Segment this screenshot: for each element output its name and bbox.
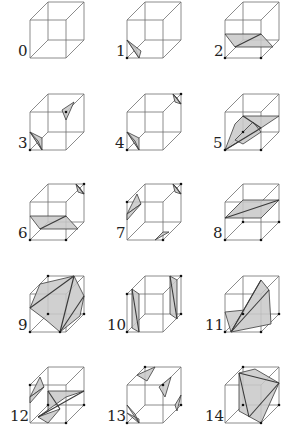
vertex-marker — [83, 404, 86, 407]
vertex-marker — [224, 57, 227, 60]
vertex-marker — [180, 275, 183, 278]
case-label: 6 — [18, 224, 28, 242]
case-3: 3 — [18, 94, 84, 152]
case-label: 4 — [115, 134, 125, 152]
vertex-marker — [126, 57, 129, 60]
vertex-marker — [180, 404, 183, 407]
vertex-marker — [47, 275, 50, 278]
isosurface — [159, 377, 171, 397]
case-0: 0 — [18, 2, 84, 60]
case-label: 14 — [205, 407, 224, 425]
case-label: 10 — [107, 316, 126, 334]
isosurface — [137, 367, 155, 381]
vertex-marker — [278, 404, 281, 407]
vertex-marker — [278, 313, 281, 316]
case-label: 12 — [10, 407, 29, 425]
vertex-marker — [59, 331, 62, 334]
vertex-marker — [29, 149, 32, 152]
case-label: 7 — [116, 224, 126, 242]
vertex-marker — [162, 384, 165, 387]
vertex-marker — [224, 149, 227, 152]
vertex-marker — [180, 183, 183, 186]
case-4: 4 — [115, 93, 182, 152]
case-label: 0 — [18, 42, 28, 60]
vertex-marker — [65, 239, 68, 242]
vertex-marker — [65, 111, 68, 114]
case-7: 7 — [116, 183, 182, 242]
isosurface — [231, 280, 271, 332]
case-6: 6 — [18, 183, 85, 242]
cube-wireframe — [127, 184, 181, 240]
vertex-marker — [180, 313, 183, 316]
vertex-marker — [83, 313, 86, 316]
vertex-marker — [278, 221, 281, 224]
vertex-marker — [242, 404, 245, 407]
vertex-marker — [180, 93, 183, 96]
vertex-marker — [83, 183, 86, 186]
case-5: 5 — [213, 94, 279, 152]
vertex-marker — [242, 366, 245, 369]
case-9: 9 — [18, 275, 85, 334]
case-13: 13 — [107, 366, 182, 425]
marching-cubes-figure: 0 1 2 3 4 — [0, 0, 287, 432]
vertex-marker — [144, 366, 147, 369]
case-label: 3 — [18, 134, 28, 152]
isosurface — [175, 395, 181, 411]
vertex-marker — [126, 293, 129, 296]
case-label: 13 — [107, 407, 126, 425]
case-label: 11 — [205, 316, 224, 334]
cube-wireframe — [30, 184, 84, 240]
vertex-marker — [162, 239, 165, 242]
cube-wireframe — [225, 2, 279, 58]
cube-wireframe — [30, 2, 84, 58]
vertex-marker — [260, 239, 263, 242]
case-label: 2 — [214, 42, 224, 60]
case-12: 12 — [10, 367, 85, 425]
case-2: 2 — [214, 2, 279, 60]
vertex-marker — [65, 422, 68, 425]
isosurface — [239, 369, 279, 423]
case-label: 5 — [213, 134, 223, 152]
vertex-marker — [29, 331, 32, 334]
case-label: 1 — [116, 42, 126, 60]
case-1: 1 — [116, 2, 181, 60]
case-label: 8 — [213, 224, 223, 242]
case-label: 9 — [18, 316, 28, 334]
vertex-marker — [47, 313, 50, 316]
vertex-marker — [47, 404, 50, 407]
vertex-marker — [242, 221, 245, 224]
vertex-marker — [260, 331, 263, 334]
case-8: 8 — [213, 184, 280, 242]
vertex-marker — [242, 313, 245, 316]
vertex-marker — [260, 57, 263, 60]
case-10: 10 — [107, 275, 182, 334]
vertex-marker — [260, 149, 263, 152]
vertex-marker — [260, 422, 263, 425]
isosurface — [127, 40, 141, 58]
case-14: 14 — [205, 366, 280, 425]
case-11: 11 — [205, 276, 280, 334]
vertex-marker — [29, 239, 32, 242]
vertex-marker — [29, 384, 32, 387]
vertex-marker — [126, 149, 129, 152]
vertex-marker — [242, 131, 245, 134]
vertex-marker — [224, 239, 227, 242]
isosurface — [62, 102, 74, 120]
vertex-marker — [126, 201, 129, 204]
